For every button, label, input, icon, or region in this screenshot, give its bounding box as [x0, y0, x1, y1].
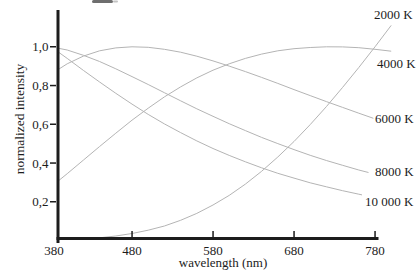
curve-2000k [51, 25, 391, 240]
curve-labels: 2000 K4000 K6000 K8000 K10 000 K [365, 7, 416, 209]
x-tick-780 [374, 231, 376, 237]
blackbody-spectra-figure: 3804805806807801,00,80,60,40,2 wavelengt… [0, 0, 417, 278]
y-axis-label: normalized intensity [12, 63, 27, 174]
blackbody-spectra-chart: 3804805806807801,00,80,60,40,2 wavelengt… [0, 0, 417, 278]
y-tick-label-0_2: 0,2 [32, 194, 48, 209]
curve-label-10000k: 10 000 K [365, 194, 414, 209]
y-tick-0.8 [50, 85, 56, 87]
x-tick-label-480: 480 [122, 243, 142, 258]
y-axis [57, 10, 60, 243]
x-axis [57, 237, 379, 240]
x-tick-label-780: 780 [365, 243, 385, 258]
x-axis-label: wavelength (nm) [179, 255, 267, 270]
y-tick-label-0_6: 0,6 [32, 117, 49, 132]
x-tick-label-380: 380 [44, 243, 64, 258]
curve-label-8000k: 8000 K [375, 164, 414, 179]
curve-label-4000k: 4000 K [377, 56, 416, 71]
x-tick-480 [131, 231, 133, 237]
x-tick-580 [212, 231, 214, 237]
y-tick-0.4 [50, 162, 56, 164]
curve-4000k [51, 47, 391, 187]
x-tick-680 [293, 231, 295, 237]
tick-marks [50, 46, 376, 237]
curve-10000k [51, 47, 362, 195]
y-tick-label-0_4: 0,4 [32, 156, 49, 171]
cropped-text-artifact [92, 0, 118, 3]
curve-group [51, 25, 391, 240]
y-tick-label-1_0: 1,0 [32, 39, 48, 54]
y-tick-label-0_8: 0,8 [32, 78, 48, 93]
y-tick-0.2 [50, 201, 56, 203]
y-tick-1 [50, 46, 56, 48]
curve-8000k [51, 47, 369, 173]
curve-label-2000k: 2000 K [374, 7, 413, 22]
curve-label-6000k: 6000 K [375, 111, 414, 126]
x-tick-label-680: 680 [284, 243, 304, 258]
y-tick-0.6 [50, 124, 56, 126]
